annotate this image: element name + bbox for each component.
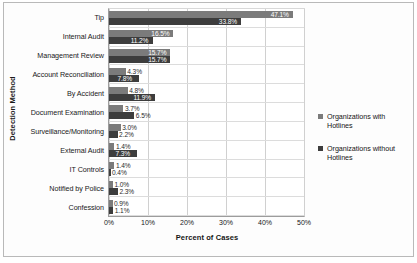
bar-value-label: 47.1% xyxy=(271,11,289,18)
bar-value-label: 2.2% xyxy=(119,131,134,138)
gridline xyxy=(304,9,305,216)
bar-value-label: 15.7% xyxy=(148,49,166,56)
bar-wrapper: 6.5% xyxy=(109,112,304,119)
bar-group: 1.0%2.3% xyxy=(109,178,304,197)
bar xyxy=(109,143,114,150)
bar-wrapper: 15.7% xyxy=(109,56,304,63)
bar-wrapper: 3.0% xyxy=(109,124,304,131)
y-axis-category-label: Surveillance/Monitoring xyxy=(16,122,107,141)
bar xyxy=(109,169,111,176)
x-axis-tick-label: 30% xyxy=(219,219,233,226)
bar-wrapper: 33.8% xyxy=(109,18,304,25)
bar-wrapper: 7.8% xyxy=(109,75,304,82)
x-axis-ticks: 0%10%20%30%40%50% xyxy=(108,219,306,231)
bar-wrapper: 7.3% xyxy=(109,150,304,157)
legend-item[interactable]: Organizations with Hotlines xyxy=(318,112,410,130)
bar-value-label: 7.8% xyxy=(117,75,132,82)
bar xyxy=(109,207,113,214)
bar xyxy=(109,131,118,138)
bar-value-label: 4.8% xyxy=(129,87,144,94)
bar-wrapper: 2.3% xyxy=(109,188,304,195)
bar-value-label: 3.7% xyxy=(125,105,140,112)
bar xyxy=(109,181,113,188)
y-axis-category-label: Document Examination xyxy=(16,103,107,122)
y-axis-category-label: External Audit xyxy=(16,141,107,160)
bar-wrapper: 4.8% xyxy=(109,87,304,94)
y-axis-category-label: Notified by Police xyxy=(16,179,107,198)
plot-area: 47.1%33.8%16.5%11.2%15.7%15.7%4.3%7.8%4.… xyxy=(108,8,305,217)
bar-group: 1.4%7.3% xyxy=(109,141,304,160)
y-axis-category-label: Confession xyxy=(16,198,107,217)
bar xyxy=(109,200,113,207)
legend-item[interactable]: Organizations without Hotlines xyxy=(318,144,410,162)
y-axis-category-label: IT Controls xyxy=(16,160,107,179)
bar-group: 4.8%11.9% xyxy=(109,84,304,103)
bar-value-label: 2.3% xyxy=(119,188,134,195)
bar-group: 3.0%2.2% xyxy=(109,122,304,141)
bar-wrapper: 11.9% xyxy=(109,94,304,101)
bar-value-label: 1.4% xyxy=(116,162,131,169)
bar-group: 4.3%7.8% xyxy=(109,65,304,84)
bar-value-label: 16.5% xyxy=(151,30,169,37)
bar-group: 0.9%1.1% xyxy=(109,197,304,216)
bar-value-label: 1.1% xyxy=(115,207,130,214)
bar-wrapper: 1.0% xyxy=(109,181,304,188)
row-separator xyxy=(109,215,304,216)
chart-legend: Organizations with HotlinesOrganizations… xyxy=(318,112,410,176)
legend-swatch-icon xyxy=(318,146,323,151)
bar-wrapper: 3.7% xyxy=(109,105,304,112)
bar-wrapper: 0.4% xyxy=(109,169,304,176)
y-axis-category-label: Management Review xyxy=(16,46,107,65)
bar-value-label: 1.4% xyxy=(116,143,131,150)
x-axis-tick-label: 0% xyxy=(104,219,114,226)
y-axis-category-label: By Accident xyxy=(16,84,107,103)
bar-value-label: 3.0% xyxy=(122,124,137,131)
bar-wrapper: 1.4% xyxy=(109,162,304,169)
bar-wrapper: 1.1% xyxy=(109,207,304,214)
bar xyxy=(109,105,123,112)
legend-label: Organizations without Hotlines xyxy=(327,144,410,162)
legend-swatch-icon xyxy=(318,114,323,119)
x-axis-title: Percent of Cases xyxy=(108,233,306,242)
x-axis-tick-label: 20% xyxy=(180,219,194,226)
y-axis-category-label: Account Reconciliation xyxy=(16,65,107,84)
x-axis-tick-label: 40% xyxy=(258,219,272,226)
bar-value-label: 7.3% xyxy=(115,150,130,157)
x-axis-tick-label: 10% xyxy=(141,219,155,226)
bar-value-label: 1.0% xyxy=(114,181,129,188)
bar-wrapper: 16.5% xyxy=(109,30,304,37)
y-axis-category-labels: TipInternal AuditManagement ReviewAccoun… xyxy=(16,8,107,217)
y-axis-category-label: Internal Audit xyxy=(16,27,107,46)
bar xyxy=(109,124,121,131)
bar-wrapper: 11.2% xyxy=(109,37,304,44)
bar xyxy=(109,112,134,119)
y-axis-category-label: Tip xyxy=(16,8,107,27)
x-axis-tick-label: 50% xyxy=(297,219,311,226)
legend-label: Organizations with Hotlines xyxy=(327,112,410,130)
bar-value-label: 4.3% xyxy=(127,68,142,75)
bar-value-label: 0.4% xyxy=(112,169,127,176)
bar xyxy=(109,11,293,18)
bar-wrapper: 1.4% xyxy=(109,143,304,150)
bar-group: 15.7%15.7% xyxy=(109,47,304,66)
bar-rows: 47.1%33.8%16.5%11.2%15.7%15.7%4.3%7.8%4.… xyxy=(109,9,304,216)
bar-wrapper: 4.3% xyxy=(109,68,304,75)
bar xyxy=(109,68,126,75)
bar-value-label: 33.8% xyxy=(219,18,237,25)
bar-wrapper: 47.1% xyxy=(109,11,304,18)
bar-group: 1.4%0.4% xyxy=(109,160,304,179)
bar-group: 47.1%33.8% xyxy=(109,9,304,28)
bar-value-label: 15.7% xyxy=(148,56,166,63)
bar-value-label: 6.5% xyxy=(136,112,151,119)
bar xyxy=(109,162,114,169)
bar-value-label: 0.9% xyxy=(114,200,129,207)
bar-value-label: 11.9% xyxy=(133,94,151,101)
chart-container: Detection Method TipInternal AuditManage… xyxy=(0,0,417,263)
bar-wrapper: 0.9% xyxy=(109,200,304,207)
bar-group: 16.5%11.2% xyxy=(109,28,304,47)
bar-wrapper: 2.2% xyxy=(109,131,304,138)
bar xyxy=(109,188,118,195)
bar-wrapper: 15.7% xyxy=(109,49,304,56)
bar-group: 3.7%6.5% xyxy=(109,103,304,122)
bar-value-label: 11.2% xyxy=(131,37,149,44)
